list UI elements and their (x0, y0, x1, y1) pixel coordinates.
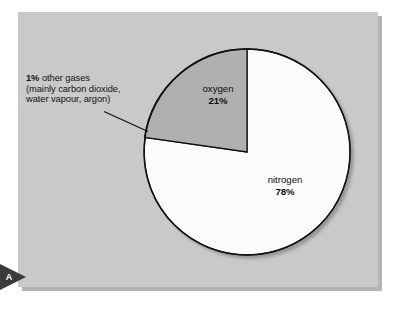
callout-leader-line (104, 112, 148, 132)
callout-line1-rest: other gases (39, 73, 90, 83)
oxygen-name: oxygen (179, 83, 257, 95)
oxygen-value: 21% (179, 95, 257, 107)
pie-chart (0, 0, 396, 311)
corner-marker-label: A (2, 270, 16, 284)
callout-percent: 1% (26, 73, 39, 83)
nitrogen-name: nitrogen (246, 174, 324, 186)
slice-label-nitrogen: nitrogen 78% (246, 174, 324, 197)
nitrogen-value: 78% (246, 186, 324, 198)
callout-line2: (mainly carbon dioxide, (26, 84, 120, 94)
figure-root: 1% other gases (mainly carbon dioxide, w… (0, 0, 396, 311)
callout-annotation: 1% other gases (mainly carbon dioxide, w… (26, 73, 176, 105)
slice-label-oxygen: oxygen 21% (179, 83, 257, 106)
callout-line3: water vapour, argon) (26, 94, 110, 104)
